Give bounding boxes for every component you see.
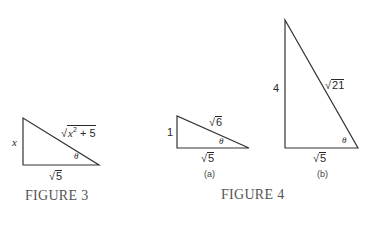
fig3-angle-theta: θ (74, 152, 78, 161)
fig4a-angle-theta: θ (219, 137, 223, 146)
fig3-hyp-rest: + 5 (77, 127, 96, 139)
fig4b-sublabel: (b) (317, 170, 328, 179)
fig4a-sublabel: (a) (204, 170, 215, 179)
fig4a-base-radicand: 5 (207, 152, 214, 164)
fig4b-side-4: 4 (273, 83, 279, 94)
fig4b-angle-theta: θ (342, 136, 346, 145)
fig3-side-x: x (12, 137, 17, 148)
fig4a-base-label: √5 (201, 152, 214, 164)
figure3-caption: FIGURE 3 (25, 189, 88, 203)
fig4b-hyp-radicand: 21 (331, 79, 344, 91)
fig4a-hypotenuse-label: √6 (209, 116, 222, 128)
figure4-caption: FIGURE 4 (221, 188, 284, 202)
fig3-base-label: √5 (49, 170, 62, 182)
fig4b-hypotenuse-label: √21 (325, 79, 344, 91)
fig4a-side-1: 1 (167, 127, 173, 138)
figure4b-triangle (285, 20, 358, 148)
fig3-hyp-radicand: x2 + 5 (67, 125, 95, 139)
fig4b-base-radicand: 5 (319, 152, 326, 164)
fig4a-hyp-radicand: 6 (215, 116, 222, 128)
fig4b-base-label: √5 (313, 152, 326, 164)
fig3-hypotenuse-label: √x2 + 5 (61, 125, 96, 139)
fig3-base-radicand: 5 (55, 170, 62, 182)
